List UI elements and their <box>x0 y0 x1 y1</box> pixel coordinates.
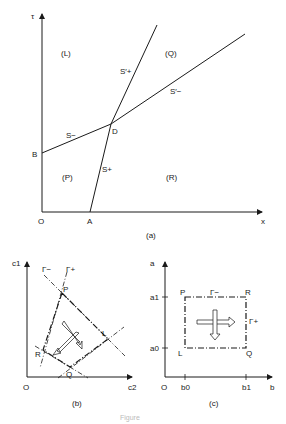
gamma-minus-label: Γ− <box>42 265 51 274</box>
x-axis-label: x <box>261 217 265 226</box>
line-s-minus <box>42 124 111 153</box>
c2-axis-label: c2 <box>128 383 137 392</box>
panel-c-caption: (c) <box>209 399 219 408</box>
b-axis-label: b <box>270 383 275 392</box>
origin-label: O <box>38 217 44 226</box>
point-a-label: A <box>87 217 93 226</box>
region-l-label: (L) <box>61 49 71 58</box>
panel-c: a b O a1 a0 b0 b1 Γ− Γ+ P R L Q (c) <box>150 259 275 408</box>
point-d-label: D <box>112 127 118 136</box>
s-plus-prime-label: S′+ <box>120 67 132 76</box>
region-q-label: (Q) <box>165 49 177 58</box>
tick-b1-label: b1 <box>242 383 251 392</box>
origin-label: O <box>161 383 167 392</box>
tick-a1-label: a1 <box>150 293 159 302</box>
gamma-plus-label: Γ+ <box>249 317 258 326</box>
c1-axis-label: c1 <box>12 259 21 268</box>
s-minus-prime-label: S′− <box>170 87 182 96</box>
crossed-arrows-icon <box>53 321 82 355</box>
point-l-label: L <box>178 349 183 358</box>
panel-b-caption: (b) <box>72 399 82 408</box>
region-p-label: (P) <box>62 173 73 182</box>
s-plus-label: S+ <box>102 165 112 174</box>
a-axis-label: a <box>150 259 155 268</box>
point-r-label: R <box>245 288 251 297</box>
cross-arrows-icon <box>197 310 235 340</box>
point-p-label: P <box>63 285 68 294</box>
tick-a0-label: a0 <box>150 344 159 353</box>
panel-a: τ x O A B D (L) (Q) (P) (R) S− S+ S′+ S′… <box>31 12 265 240</box>
panel-b: c1 c2 O Γ− Γ+ P L Q R (b) <box>12 259 137 408</box>
line-s-minus-prime <box>111 34 245 124</box>
region-pqlr <box>43 293 108 367</box>
point-q-label: Q <box>246 349 252 358</box>
figure-caption: Figure <box>120 414 140 422</box>
point-l-label: L <box>102 329 107 338</box>
point-q-label: Q <box>66 370 72 379</box>
point-b-label: B <box>32 150 37 159</box>
figure-canvas: τ x O A B D (L) (Q) (P) (R) S− S+ S′+ S′… <box>0 0 286 424</box>
tick-b0-label: b0 <box>181 383 190 392</box>
point-r-label: R <box>35 350 41 359</box>
s-minus-label: S− <box>66 131 76 140</box>
tau-axis-label: τ <box>31 12 35 21</box>
gamma-minus-line-upper <box>44 275 125 356</box>
gamma-plus-label: Γ+ <box>66 265 75 274</box>
panel-a-caption: (a) <box>146 231 156 240</box>
gamma-minus-label: Γ− <box>210 288 219 297</box>
origin-label: O <box>23 383 29 392</box>
region-r-label: (R) <box>166 173 177 182</box>
point-p-label: P <box>180 288 185 297</box>
